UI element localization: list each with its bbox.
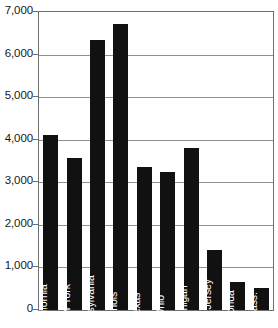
y-axis-tick-label: 0: [0, 303, 33, 315]
y-axis-tick-label-text: 6,000: [0, 48, 33, 60]
y-axis-tick-label-text: 5,000: [0, 90, 33, 102]
bar-chart-figure: 7,0006,0005,0004,0003,0002,0001,0000 Cal…: [0, 0, 278, 328]
bar: Texas: [137, 167, 152, 310]
y-axis-tick-mark: [33, 96, 38, 97]
y-axis-tick-label-text: 0: [0, 303, 33, 315]
bar: Mass.: [254, 288, 269, 310]
bar-category-label: New York: [59, 284, 74, 328]
bar: Michigan: [184, 148, 199, 310]
bar-category-label: Pennsylvania: [83, 275, 98, 328]
bar-category-label: Texas: [129, 293, 144, 320]
y-axis-tick-label: 1,000: [0, 260, 33, 272]
y-axis-tick-mark: [33, 309, 38, 310]
bar-category-label: Michigan: [176, 285, 191, 326]
y-axis-tick-label-text: 2,000: [0, 218, 33, 230]
y-axis-tick-label: 6,000: [0, 48, 33, 60]
bar: New Jersey: [207, 250, 222, 310]
y-axis-tick-label: 7,000: [0, 5, 33, 17]
y-axis-tick-label-text: 3,000: [0, 175, 33, 187]
bar-category-label: Florida: [223, 290, 238, 321]
bar-category-label: Ohio: [153, 295, 168, 317]
y-axis-tick-label-text: 1,000: [0, 260, 33, 272]
bars-layer: CaliforniaNew YorkPennsylvaniaIllinoisTe…: [39, 12, 273, 310]
y-axis-tick-label: 2,000: [0, 218, 33, 230]
y-axis-tick-mark: [33, 54, 38, 55]
y-axis-tick-label-text: 4,000: [0, 133, 33, 145]
plot-area: CaliforniaNew YorkPennsylvaniaIllinoisTe…: [38, 11, 274, 311]
y-axis-tick-mark: [33, 181, 38, 182]
y-axis-tick-label: 5,000: [0, 90, 33, 102]
y-axis-tick-mark: [33, 11, 38, 12]
bar-category-label: New Jersey: [200, 279, 215, 328]
bar-category-label: California: [36, 284, 51, 327]
y-axis-tick-mark: [33, 224, 38, 225]
y-axis-tick-labels: 7,0006,0005,0004,0003,0002,0001,0000: [0, 0, 33, 328]
bar-category-label: Illinois: [106, 292, 121, 320]
bar: Florida: [230, 282, 245, 310]
y-axis-tick-label: 3,000: [0, 175, 33, 187]
bar: New York: [67, 158, 82, 310]
bar: California: [43, 135, 58, 310]
y-axis-tick-label: 4,000: [0, 133, 33, 145]
y-axis-tick-label-text: 7,000: [0, 5, 33, 17]
y-axis-tick-mark: [33, 266, 38, 267]
y-axis-tick-mark: [33, 139, 38, 140]
bar: Illinois: [113, 24, 128, 310]
bar: Pennsylvania: [90, 40, 105, 310]
bar-category-label: Mass.: [246, 292, 261, 320]
bar: Ohio: [160, 172, 175, 310]
